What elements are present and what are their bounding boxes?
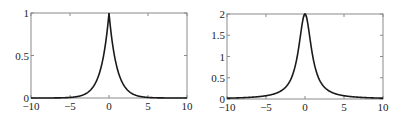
- plot-frame: [31, 13, 187, 98]
- x-tick-label: 10: [378, 101, 390, 113]
- y-tick-label: 0: [220, 93, 226, 105]
- x-tick-label: −5: [64, 100, 76, 112]
- x-tick-label: 0: [302, 101, 308, 113]
- figure: −10−5051000.51 −10−5051000.511.52: [0, 0, 403, 121]
- y-tick-label: 0: [24, 92, 30, 104]
- y-tick-label: 1: [24, 7, 30, 19]
- y-tick-label: 1: [220, 51, 226, 63]
- chart-cauchy: −10−5051000.511.52: [211, 8, 389, 113]
- x-tick-label: 10: [182, 100, 194, 112]
- y-tick-label: 2: [220, 8, 226, 20]
- plot-frame: [227, 14, 383, 99]
- x-tick-label: 5: [341, 101, 347, 113]
- x-tick-label: −5: [260, 101, 272, 113]
- x-tick-label: 0: [106, 100, 112, 112]
- chart-laplace: −10−5051000.51: [15, 7, 193, 112]
- x-tick-label: 5: [145, 100, 151, 112]
- y-tick-label: 0.5: [15, 50, 29, 62]
- data-line: [227, 14, 383, 98]
- y-tick-label: 0.5: [211, 72, 225, 84]
- y-tick-label: 1.5: [211, 29, 225, 41]
- data-line: [31, 13, 187, 98]
